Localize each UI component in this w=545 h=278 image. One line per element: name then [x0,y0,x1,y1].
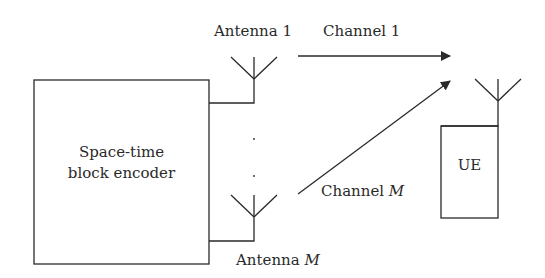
ellipsis-dot [253,138,255,140]
channel-m-arrow [298,81,450,194]
channel-m-label-prefix: Channel [321,182,389,200]
channel-m-label: Channel M [321,184,404,199]
ue-antenna-icon [441,79,521,126]
antenna-1-icon [209,57,277,103]
channel-1-label: Channel 1 [323,24,400,39]
antenna-m-label: Antenna M [236,253,320,268]
antenna-m-icon [209,195,277,241]
antenna-1-label: Antenna 1 [214,24,292,39]
encoder-label: Space-time block encoder [34,145,209,181]
antenna-m-label-var: M [304,251,319,269]
mimo-diagram [0,0,545,278]
encoder-label-line2: block encoder [34,166,209,181]
ue-label: UE [441,158,498,173]
channel-m-label-var: M [389,182,404,200]
encoder-label-line1: Space-time [34,145,209,160]
ellipsis-dot [253,175,255,177]
antenna-m-label-prefix: Antenna [236,251,304,269]
